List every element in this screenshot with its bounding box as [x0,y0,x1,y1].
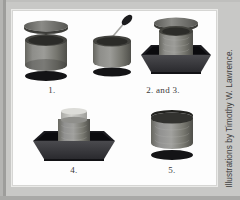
swab-jar-group [93,13,134,77]
tray-front-icon [33,141,115,161]
figure-root: 1. [0,0,240,200]
step-panel-1: 1. [15,15,89,107]
container-closed-icon [151,110,193,149]
mat-edge-left-dark [3,0,6,200]
step-4-artwork [19,107,129,165]
tray-with-container-group [141,18,211,74]
step-23-artwork [89,15,214,85]
tray-front-icon [141,55,211,74]
mat-edge-top [0,0,240,2]
step-panel-23: 2. and 3. [89,15,214,107]
container-lid-icon [24,21,68,34]
step-4-label: 4. [19,165,129,175]
step-1-label: 1. [15,85,89,95]
step-1-artwork [15,15,89,85]
credit-text: Illustrations by Timothy W. Lawrence. [226,49,234,188]
mat-edge-bottom [0,196,240,200]
container-shadow-icon [25,71,67,81]
credit-line: Illustrations by Timothy W. Lawrence. [222,16,238,188]
container-cap-icon [61,108,87,123]
container-shadow-icon [151,150,193,160]
container-shadow-icon [93,67,131,76]
step-5-artwork [133,107,211,165]
illustration-panel: 1. [12,10,217,186]
container-body-icon [25,34,67,71]
step-panel-4: 4. [19,107,129,185]
step-5-label: 5. [133,165,211,175]
step-panel-5: 5. [133,107,211,185]
step-23-label: 2. and 3. [113,85,213,95]
